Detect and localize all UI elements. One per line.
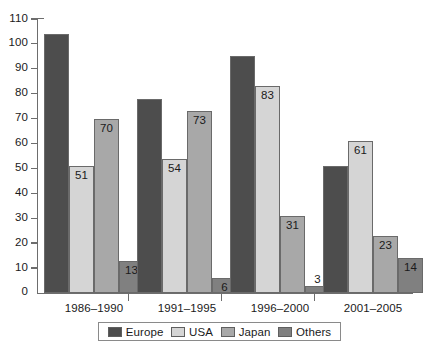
legend-swatch-icon-europe (108, 327, 122, 337)
y-tick-90 (31, 68, 38, 69)
bar-europe-2001-2005 (323, 166, 348, 293)
y-tick-20 (31, 242, 38, 243)
bar-usa-1986-1990: 51 (69, 166, 94, 293)
bar-value-label: 83 (256, 89, 279, 101)
bar-usa-2001-2005: 61 (348, 141, 373, 293)
bar-others-2001-2005: 14 (398, 258, 423, 293)
y-tick-100 (31, 43, 38, 44)
legend-swatch-icon-japan (221, 327, 235, 337)
legend-item-japan: Japan (221, 326, 271, 338)
y-tick-30 (31, 218, 38, 219)
plot-area: 51 70 13 54 73 6 83 31 3 (38, 19, 412, 293)
bar-japan-1986-1990: 70 (94, 119, 119, 293)
x-tick-1 (128, 294, 129, 301)
y-tick-label-60: 60 (0, 137, 28, 149)
legend-item-europe: Europe (108, 326, 164, 338)
bar-value-label: 54 (163, 162, 186, 174)
y-tick-label-70: 70 (0, 112, 28, 124)
bar-europe-1991-1995 (137, 99, 162, 293)
y-tick-110 (31, 18, 38, 19)
y-tick-50 (31, 168, 38, 169)
bar-japan-2001-2005: 23 (373, 236, 398, 293)
y-tick-label-110: 110 (0, 13, 28, 25)
y-tick-label-100: 100 (0, 37, 28, 49)
y-tick-label-20: 20 (0, 237, 28, 249)
y-tick-label-80: 80 (0, 87, 28, 99)
x-tick-2 (221, 294, 222, 301)
bar-value-label: 14 (399, 261, 422, 273)
bar-europe-1996-2000 (230, 56, 255, 293)
bar-value-label: 73 (188, 114, 211, 126)
x-axis-label-group-4: 2001–2005 (317, 302, 429, 314)
bar-japan-1991-1995: 73 (187, 111, 212, 293)
bar-value-label: 61 (349, 144, 372, 156)
legend-item-usa: USA (171, 326, 213, 338)
y-tick-label-90: 90 (0, 62, 28, 74)
bar-value-label: 31 (281, 219, 304, 231)
bar-chart: 110 100 90 80 70 60 50 40 30 20 10 0 51 … (0, 0, 436, 349)
legend-swatch-icon-usa (171, 327, 185, 337)
y-tick-60 (31, 143, 38, 144)
y-tick-label-0: 0 (0, 286, 28, 298)
y-tick-80 (31, 93, 38, 94)
legend-label-europe: Europe (126, 326, 164, 338)
y-tick-label-30: 30 (0, 212, 28, 224)
bar-value-label: 23 (374, 239, 397, 251)
bar-usa-1996-2000: 83 (255, 86, 280, 293)
bar-usa-1991-1995: 54 (162, 159, 187, 294)
legend-label-usa: USA (189, 326, 213, 338)
y-tick-label-50: 50 (0, 162, 28, 174)
legend-label-japan: Japan (239, 326, 271, 338)
y-tick-label-10: 10 (0, 262, 28, 274)
y-tick-10 (31, 267, 38, 268)
legend-label-others: Others (296, 326, 331, 338)
bar-japan-1996-2000: 31 (280, 216, 305, 293)
x-tick-3 (314, 294, 315, 301)
chart-legend: Europe USA Japan Others (98, 322, 341, 341)
bar-value-label: 70 (95, 122, 118, 134)
legend-swatch-icon-others (278, 327, 292, 337)
y-tick-40 (31, 193, 38, 194)
bar-value-label: 51 (70, 169, 93, 181)
y-tick-70 (31, 118, 38, 119)
bar-europe-1986-1990 (44, 34, 69, 293)
y-tick-label-40: 40 (0, 187, 28, 199)
legend-item-others: Others (278, 326, 331, 338)
